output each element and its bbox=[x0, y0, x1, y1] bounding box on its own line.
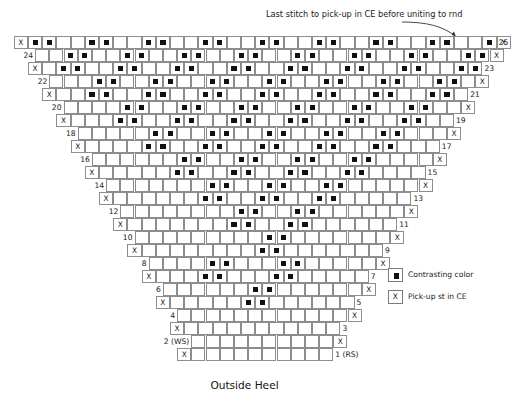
chart-cell bbox=[383, 114, 397, 127]
chart-row: X20 bbox=[0, 101, 489, 114]
chart-cell bbox=[340, 140, 354, 153]
chart-cell bbox=[404, 127, 418, 140]
chart-row: X2 (WS) bbox=[0, 335, 489, 348]
chart-cell bbox=[340, 244, 354, 257]
contrasting-color-stitch bbox=[195, 104, 202, 111]
chart-cell bbox=[404, 179, 418, 192]
chart-cell bbox=[191, 257, 205, 270]
contrasting-color-stitch bbox=[287, 221, 294, 228]
chart-cell bbox=[163, 231, 177, 244]
chart-cell bbox=[390, 49, 404, 62]
pickup-stitch-cell-right: X bbox=[419, 179, 433, 192]
chart-cell bbox=[234, 283, 248, 296]
contrasting-color-stitch bbox=[294, 104, 301, 111]
row-number-left: 22 bbox=[7, 75, 47, 88]
row-number-right: 13 bbox=[413, 192, 455, 205]
chart-cell bbox=[426, 140, 440, 153]
chart-cell bbox=[369, 244, 383, 257]
chart-cell bbox=[177, 205, 191, 218]
chart-cell bbox=[92, 153, 106, 166]
row-number-left: 18 bbox=[36, 127, 76, 140]
chart-cell bbox=[255, 62, 269, 75]
chart-cell bbox=[191, 205, 205, 218]
pickup-stitch-cell-right: X bbox=[390, 231, 404, 244]
chart-cell bbox=[135, 179, 149, 192]
contrasting-color-stitch bbox=[280, 130, 287, 137]
chart-cell bbox=[277, 49, 291, 62]
chart-cell bbox=[191, 335, 205, 348]
pickup-stitch-cell-left: X bbox=[99, 192, 113, 205]
contrasting-color-stitch bbox=[81, 52, 88, 59]
contrasting-color-stitch bbox=[380, 78, 387, 85]
chart-row: X17 bbox=[0, 140, 489, 153]
contrasting-color-stitch bbox=[401, 65, 408, 72]
contrasting-color-stitch bbox=[443, 91, 450, 98]
contrasting-color-stitch bbox=[124, 52, 131, 59]
chart-cell bbox=[298, 322, 312, 335]
contrasting-color-stitch bbox=[181, 156, 188, 163]
chart-cell bbox=[191, 231, 205, 244]
chart-cell bbox=[170, 270, 184, 283]
pickup-stitch-cell-left: X bbox=[28, 62, 42, 75]
chart-cell bbox=[319, 348, 333, 361]
chart-cell bbox=[113, 192, 127, 205]
chart-cell bbox=[248, 179, 262, 192]
chart-cell bbox=[241, 140, 255, 153]
chart-cell bbox=[120, 179, 134, 192]
contrasting-color-stitch bbox=[181, 104, 188, 111]
chart-cell bbox=[369, 166, 383, 179]
chart-cell bbox=[220, 309, 234, 322]
contrasting-color-stitch bbox=[117, 117, 124, 124]
contrasting-color-stitch bbox=[216, 273, 223, 280]
chart-row: X1 (RS) bbox=[0, 348, 489, 361]
chart-cell bbox=[376, 49, 390, 62]
row-number-left: 20 bbox=[22, 101, 62, 114]
chart-row: X9 bbox=[0, 244, 489, 257]
chart-cell bbox=[355, 218, 369, 231]
chart-cell bbox=[35, 49, 49, 62]
chart-row: X24 bbox=[0, 49, 489, 62]
row-number-left: 10 bbox=[93, 231, 133, 244]
chart-cell bbox=[262, 348, 276, 361]
chart-cell bbox=[227, 140, 241, 153]
row-number-left: 12 bbox=[78, 205, 118, 218]
contrasting-color-stitch bbox=[316, 39, 323, 46]
chart-cell bbox=[241, 244, 255, 257]
contrasting-color-stitch bbox=[159, 39, 166, 46]
chart-cell bbox=[113, 140, 127, 153]
chart-cell bbox=[184, 270, 198, 283]
contrasting-color-stitch bbox=[202, 39, 209, 46]
chart-cell bbox=[291, 335, 305, 348]
chart-cell bbox=[284, 244, 298, 257]
contrasting-color-stitch bbox=[351, 52, 358, 59]
chart-cell bbox=[277, 309, 291, 322]
pickup-stitch-cell-right: X bbox=[490, 49, 504, 62]
chart-cell bbox=[369, 114, 383, 127]
contrasting-color-stitch bbox=[230, 65, 237, 72]
contrasting-color-stitch bbox=[351, 156, 358, 163]
chart-cell bbox=[390, 179, 404, 192]
chart-cell bbox=[149, 179, 163, 192]
chart-cell bbox=[269, 296, 283, 309]
chart-row: X13 bbox=[0, 192, 489, 205]
row-number-left: 16 bbox=[50, 153, 90, 166]
contrasting-color-stitch bbox=[301, 65, 308, 72]
pickup-stitch-cell-left: X bbox=[71, 140, 85, 153]
pickup-stitch-cell-right: X bbox=[433, 153, 447, 166]
chart-cell bbox=[227, 192, 241, 205]
chart-cell bbox=[390, 101, 404, 114]
chart-cell bbox=[170, 244, 184, 257]
contrasting-color-stitch bbox=[422, 104, 429, 111]
chart-cell bbox=[135, 127, 149, 140]
chart-cell bbox=[355, 244, 369, 257]
chart-cell bbox=[49, 75, 63, 88]
chart-cell bbox=[447, 49, 461, 62]
chart-row: X12 bbox=[0, 205, 489, 218]
chart-cell bbox=[191, 127, 205, 140]
chart-cell bbox=[234, 179, 248, 192]
chart-cell bbox=[234, 309, 248, 322]
contrasting-color-stitch bbox=[103, 91, 110, 98]
contrasting-color-stitch bbox=[167, 130, 174, 137]
chart-cell bbox=[248, 257, 262, 270]
row-number-right: 3 bbox=[342, 322, 384, 335]
